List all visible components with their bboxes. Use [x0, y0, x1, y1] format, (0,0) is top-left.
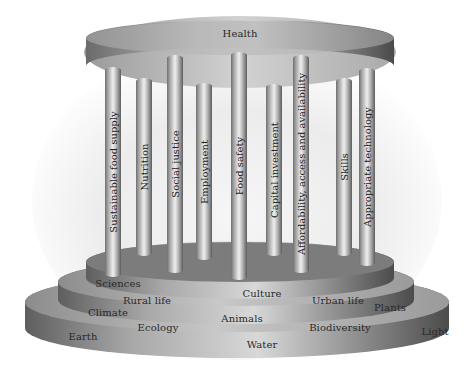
middle-tier-label: Climate — [88, 307, 128, 318]
pillar: Affordability, access and availability — [293, 55, 309, 273]
pillar-label: Affordability, access and availability — [296, 73, 307, 255]
pillar: Social justice — [167, 55, 183, 273]
temple-diagram: Health Sustainable food supplyNutritionS… — [0, 0, 473, 366]
pillar-label: Food safety — [234, 137, 245, 195]
pillar-label: Sustainable food supply — [108, 111, 119, 232]
middle-tier-label: Plants — [374, 302, 406, 313]
pillar-label: Appropriate technology — [362, 107, 373, 227]
base-tier-label: Ecology — [138, 322, 179, 333]
base-tier-label: Light — [421, 326, 448, 337]
pillar: Food safety — [231, 52, 247, 280]
roof-label: Health — [223, 28, 258, 39]
pillar-label: Social justice — [170, 130, 181, 197]
middle-tier-label: Rural life — [123, 295, 171, 306]
base-tier-label: Water — [247, 339, 278, 350]
base-tier-label: Earth — [68, 331, 97, 342]
pillar-label: Nutrition — [139, 144, 150, 191]
pillar-label: Capital investment — [269, 122, 280, 218]
pillar: Appropriate technology — [359, 68, 375, 266]
pillar: Employment — [196, 83, 212, 260]
upper-tier-label: Sciences — [95, 278, 140, 289]
pillar-label: Skills — [339, 153, 350, 181]
pillar: Skills — [336, 78, 352, 256]
upper-tier-label: Culture — [242, 288, 281, 299]
middle-tier-label: Animals — [221, 313, 262, 324]
pillar-label: Employment — [199, 140, 210, 204]
pillar: Capital investment — [266, 84, 282, 256]
pillar: Sustainable food supply — [105, 67, 121, 277]
base-tier-label: Biodiversity — [309, 322, 371, 333]
pillar: Nutrition — [136, 78, 152, 256]
upper-tier-label: Urban life — [312, 295, 364, 306]
